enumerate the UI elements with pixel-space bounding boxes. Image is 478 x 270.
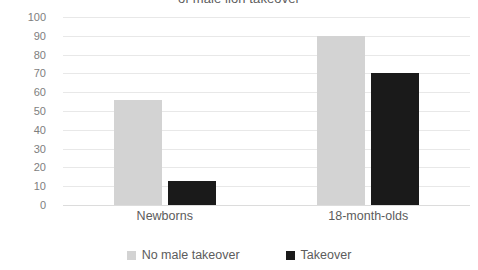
x-axis-category-label: Newborns	[137, 209, 193, 223]
chart-title: of male lion takeover	[0, 0, 478, 7]
y-axis-tick-label: 20	[34, 161, 46, 173]
y-axis-tick-label: 80	[34, 49, 46, 61]
x-axis-category-label: 18-month-olds	[328, 209, 408, 223]
gridline	[63, 205, 470, 206]
y-axis-tick-label: 90	[34, 30, 46, 42]
legend-swatch-icon	[127, 251, 136, 260]
y-axis-tick-labels: 0102030405060708090100	[0, 17, 55, 205]
legend-label: Takeover	[301, 248, 352, 262]
y-axis-tick-label: 40	[34, 124, 46, 136]
y-axis-tick-label: 50	[34, 105, 46, 117]
bar-chart: of male lion takeover 010203040506070809…	[0, 0, 478, 270]
bar	[317, 36, 365, 205]
bar	[114, 100, 162, 205]
legend-swatch-icon	[286, 251, 295, 260]
y-axis-tick-label: 100	[28, 11, 46, 23]
plot-area	[63, 17, 470, 205]
legend-label: No male takeover	[142, 248, 240, 262]
y-axis-tick-label: 0	[40, 199, 46, 211]
bar	[371, 73, 419, 205]
y-axis-tick-label: 30	[34, 143, 46, 155]
chart-legend: No male takeoverTakeover	[0, 248, 478, 262]
gridline	[63, 36, 470, 37]
legend-item[interactable]: No male takeover	[127, 248, 240, 262]
y-axis-tick-label: 10	[34, 180, 46, 192]
bar	[168, 181, 216, 205]
y-axis-tick-label: 60	[34, 86, 46, 98]
x-axis-category-labels: Newborns18-month-olds	[63, 209, 470, 231]
gridline	[63, 17, 470, 18]
gridline	[63, 55, 470, 56]
legend-item[interactable]: Takeover	[286, 248, 352, 262]
y-axis-tick-label: 70	[34, 67, 46, 79]
